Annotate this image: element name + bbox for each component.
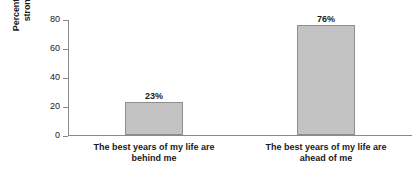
x-axis-line: [68, 135, 412, 136]
y-tick-mark: [63, 49, 68, 50]
bar-value-label: 76%: [317, 14, 335, 24]
y-axis-title: Percent somewhat/ strongly agree: [6, 0, 38, 50]
y-axis-line: [68, 20, 69, 136]
y-tick-label: 0: [55, 130, 60, 140]
plot-area: 0 20 40 60 80 23% 76%: [68, 20, 412, 136]
bar-chart: Percent somewhat/ strongly agree 0 20 40…: [0, 0, 420, 176]
y-tick-label: 80: [50, 14, 60, 24]
category-label-line-2: behind me: [74, 153, 234, 164]
y-axis-title-line-1: Percent somewhat/: [11, 0, 22, 31]
y-tick-mark: [63, 78, 68, 79]
bar-value-label: 23%: [145, 91, 163, 101]
category-label-ahead-of-me: The best years of my life are ahead of m…: [246, 142, 406, 164]
y-tick-mark: [63, 20, 68, 21]
category-label-behind-me: The best years of my life are behind me: [74, 142, 234, 164]
y-tick-label: 20: [50, 101, 60, 111]
category-label-line-2: ahead of me: [246, 153, 406, 164]
bar-behind-me: 23%: [125, 102, 183, 135]
y-tick-mark: [63, 107, 68, 108]
category-label-line-1: The best years of my life are: [74, 142, 234, 153]
y-tick-mark: [63, 136, 68, 137]
y-axis-title-line-2: strongly agree: [22, 0, 33, 21]
y-tick-label: 60: [50, 43, 60, 53]
y-tick-label: 40: [50, 72, 60, 82]
bar-ahead-of-me: 76%: [297, 25, 355, 135]
category-label-line-1: The best years of my life are: [246, 142, 406, 153]
